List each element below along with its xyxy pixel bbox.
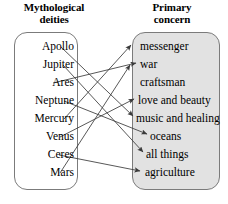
left-column-header-line2: deities bbox=[6, 14, 102, 26]
codomain-item: messenger bbox=[140, 40, 189, 53]
domain-item: Ares bbox=[52, 76, 74, 89]
domain-item: Ceres bbox=[48, 148, 74, 161]
codomain-item: love and beauty bbox=[138, 94, 211, 107]
domain-item: Jupiter bbox=[43, 58, 74, 71]
right-column-header-line1: Primary bbox=[124, 2, 220, 14]
domain-item: Apollo bbox=[42, 40, 74, 53]
codomain-item: oceans bbox=[150, 130, 181, 143]
codomain-item: agriculture bbox=[145, 166, 195, 179]
domain-item: Neptune bbox=[35, 94, 74, 107]
left-column-header-line1: Mythological bbox=[6, 2, 102, 14]
codomain-item: all things bbox=[146, 148, 189, 161]
right-column-header: Primary concern bbox=[124, 2, 220, 25]
domain-item: Mars bbox=[50, 166, 74, 179]
domain-item: Mercury bbox=[34, 112, 74, 125]
left-column-header: Mythological deities bbox=[6, 2, 102, 25]
domain-item: Venus bbox=[46, 130, 74, 143]
mapping-diagram-figure: Mythological deities Primary concern Apo… bbox=[0, 0, 228, 204]
codomain-item: music and healing bbox=[136, 112, 220, 125]
codomain-item: war bbox=[140, 58, 157, 71]
codomain-item: craftsman bbox=[140, 76, 185, 89]
right-column-header-line2: concern bbox=[124, 14, 220, 26]
